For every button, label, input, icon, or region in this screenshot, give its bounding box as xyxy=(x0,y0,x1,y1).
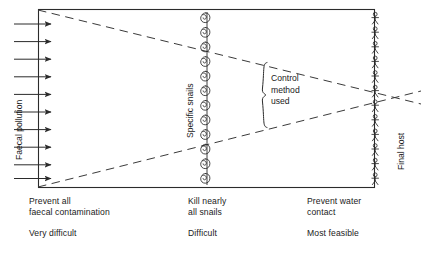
caption-feasibility-faecal: Very difficult xyxy=(29,228,77,239)
snail-shell-icon xyxy=(201,115,210,125)
snail-shell-icon xyxy=(201,101,210,111)
stick-figure-person-icon xyxy=(372,27,379,39)
stick-figure-person-icon xyxy=(372,85,379,97)
caption-feasibility-water: Most feasible xyxy=(307,228,359,239)
diagram-root: Faecal pollution Specific snails Final h… xyxy=(0,0,431,259)
caption-feasibility-snails: Difficult xyxy=(188,228,217,239)
stick-figure-person-icon xyxy=(372,56,379,68)
stick-figure-person-icon xyxy=(372,158,379,170)
dashed-line-upper xyxy=(38,10,421,104)
stick-figure-person-icon xyxy=(372,173,379,185)
stick-figure-person-icon xyxy=(372,129,379,141)
snail-shell-icon xyxy=(201,57,210,67)
snail-shell-icon xyxy=(201,13,210,23)
caption-action-snails: Kill nearly all snails xyxy=(188,196,226,218)
stick-figure-person-icon xyxy=(372,100,379,112)
main-box xyxy=(39,10,375,188)
stick-figure-person-icon xyxy=(372,115,379,127)
snail-shell-icon xyxy=(201,71,210,81)
stick-figure-person-icon xyxy=(372,71,379,83)
snail-column-group xyxy=(201,12,210,185)
snail-shell-icon xyxy=(201,159,210,169)
final-host-people-group xyxy=(372,12,379,184)
snail-shell-icon xyxy=(201,174,210,184)
snail-shell-icon xyxy=(201,86,210,96)
vertical-label-specific-snails: Specific snails xyxy=(185,84,195,138)
dashed-line-lower xyxy=(38,91,421,187)
caption-action-water: Prevent water contact xyxy=(307,196,361,218)
control-method-label: Control method used xyxy=(271,73,300,108)
control-method-brace xyxy=(262,63,267,128)
caption-action-faecal: Prevent all faecal contamination xyxy=(29,196,110,218)
snail-shell-icon xyxy=(201,28,210,38)
snail-shell-icon xyxy=(201,144,210,154)
vertical-label-faecal-pollution: Faecal pollution xyxy=(14,100,24,160)
vertical-label-final-host: Final host xyxy=(396,133,406,170)
snail-shell-icon xyxy=(201,42,210,52)
stick-figure-person-icon xyxy=(372,12,379,24)
stick-figure-person-icon xyxy=(372,144,379,156)
snail-shell-icon xyxy=(201,130,210,140)
diagram-canvas xyxy=(0,0,431,259)
dashed-wedge-lines xyxy=(38,10,421,187)
stick-figure-person-icon xyxy=(372,42,379,54)
